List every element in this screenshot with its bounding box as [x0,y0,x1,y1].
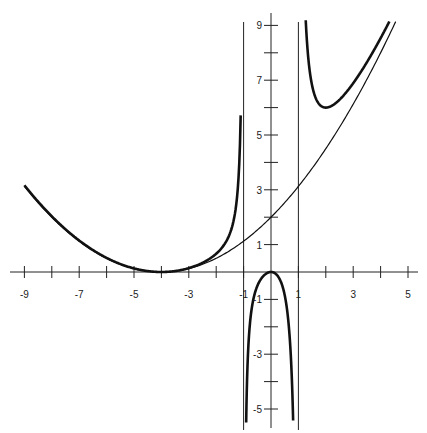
y-tick-label: -3 [253,349,262,360]
x-tick-label: 5 [405,289,411,300]
x-tick-label: 1 [296,289,302,300]
x-tick-label: -9 [20,289,29,300]
thick-curve-left-branch [24,115,240,272]
x-tick-label: 3 [350,289,356,300]
tick-labels: -9-7-5-3-113597531-1-3-5 [20,20,411,415]
y-tick-label: 1 [256,240,262,251]
thick-curve-right-branch [306,20,390,107]
x-tick-label: -3 [184,289,193,300]
x-tick-label: -1 [239,289,248,300]
y-tick-label: 5 [256,130,262,141]
y-tick-label: 3 [256,185,262,196]
x-tick-label: -5 [130,289,139,300]
function-plot: -9-7-5-3-113597531-1-3-5 [0,0,427,433]
y-tick-label: -5 [253,404,262,415]
y-tick-label: 7 [256,75,262,86]
axes [10,13,418,428]
x-tick-label: -7 [75,289,84,300]
y-tick-label: 9 [256,20,262,31]
y-tick-label: -1 [253,294,262,305]
thin-curve [24,22,395,272]
